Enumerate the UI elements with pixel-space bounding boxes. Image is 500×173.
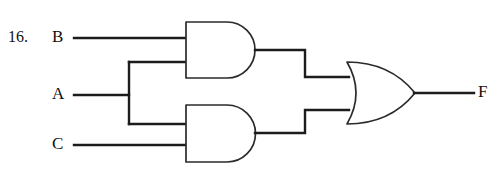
- input-label-c: C: [52, 134, 63, 153]
- circuit-canvas: 16. B A C F: [0, 0, 500, 173]
- and-gate-top: [186, 22, 255, 78]
- input-label-b: B: [52, 27, 63, 46]
- input-label-a: A: [52, 84, 65, 103]
- logic-circuit-diagram: 16. B A C F: [0, 0, 500, 173]
- or-gate-output: [347, 62, 415, 124]
- problem-number-label: 16.: [8, 28, 28, 45]
- wire-and-top-to-or: [255, 50, 349, 77]
- output-label-f: F: [478, 82, 487, 101]
- wire-and-bottom-to-or: [255, 110, 349, 133]
- and-gate-bottom: [186, 105, 256, 162]
